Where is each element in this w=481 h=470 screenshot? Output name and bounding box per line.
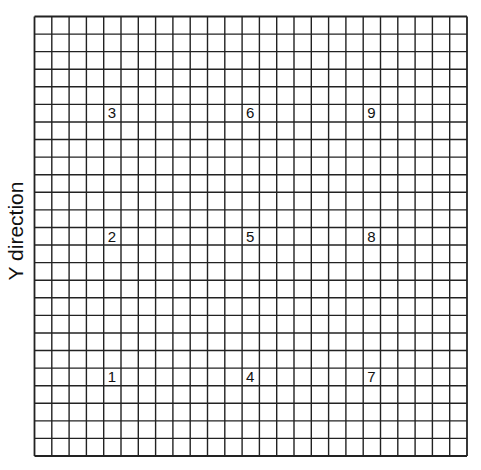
point-label-7: 7 — [367, 368, 375, 385]
grid-diagram: 123456789 — [0, 0, 481, 470]
point-label-6: 6 — [246, 104, 254, 121]
point-label-9: 9 — [367, 104, 375, 121]
point-label-5: 5 — [246, 228, 254, 245]
point-label-2: 2 — [108, 228, 116, 245]
point-label-3: 3 — [108, 104, 116, 121]
point-label-8: 8 — [367, 228, 375, 245]
point-label-1: 1 — [108, 368, 116, 385]
point-label-4: 4 — [246, 368, 254, 385]
